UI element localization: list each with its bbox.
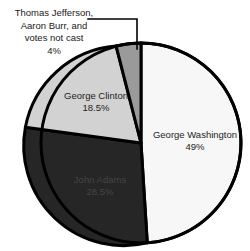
jefferson-callout-label: Thomas Jefferson, Aaron Burr, and votes … xyxy=(2,7,106,57)
